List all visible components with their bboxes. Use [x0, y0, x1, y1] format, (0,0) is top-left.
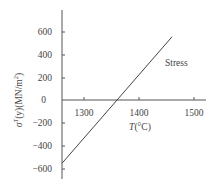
x-tick-label: 1300	[75, 108, 94, 118]
x-tick-label: 1400	[130, 108, 149, 118]
y-tick-label: 400	[38, 50, 53, 60]
x-tick-label: 1500	[185, 108, 204, 118]
series-label-stress: Stress	[165, 58, 188, 68]
y-tick-label: 200	[38, 73, 53, 83]
y-tick-labels: 600 400 200 0 −200 −400 −600	[32, 27, 52, 174]
y-tick-label: 600	[38, 27, 53, 37]
x-tick-labels: 1300 1400 1500	[75, 108, 204, 118]
x-axis-title: T(°C)	[129, 122, 151, 133]
stress-temperature-chart: 600 400 200 0 −200 −400 −600 1300 1400 1…	[0, 0, 218, 187]
y-tick-label: 0	[41, 95, 46, 105]
y-tick-label: −400	[32, 141, 52, 151]
y-axis-title: σT(y)(MN/m2)	[12, 73, 25, 127]
y-tick-label: −600	[32, 164, 52, 174]
y-tick-label: −200	[32, 118, 52, 128]
